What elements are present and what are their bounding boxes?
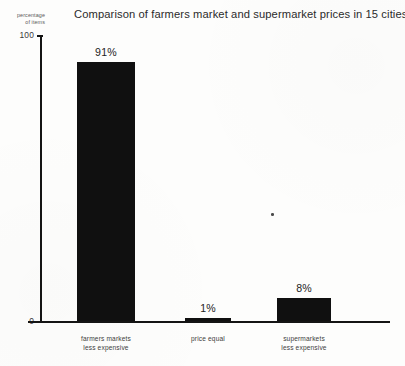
bar-value-1: 91% (59, 46, 153, 58)
category-label-3-line-2: less expensive (250, 343, 358, 352)
category-label-3-line-1: supermarkets (250, 334, 358, 343)
plot-area: 91%farmers marketsless expensive1%price … (0, 0, 405, 366)
bar-value-2: 1% (167, 302, 249, 314)
category-label-1-line-1: farmers markets (56, 334, 156, 343)
category-label-3: supermarketsless expensive (250, 334, 358, 353)
scan-speck-artifact (271, 213, 274, 216)
chart-page: Comparison of farmers market and superma… (0, 0, 405, 366)
category-label-2-line-1: price equal (173, 334, 243, 343)
category-label-1: farmers marketsless expensive (56, 334, 156, 353)
bar-3[interactable] (277, 298, 331, 321)
category-label-2: price equal (173, 334, 243, 343)
bar-2[interactable] (185, 318, 231, 321)
bar-1[interactable] (77, 62, 135, 321)
bar-value-3: 8% (259, 282, 349, 294)
category-label-1-line-2: less expensive (56, 343, 156, 352)
